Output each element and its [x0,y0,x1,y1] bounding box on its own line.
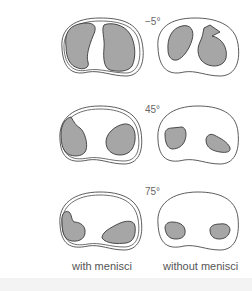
flexion-angle-label-row2: 45° [145,104,160,115]
flexion-angle-label-row3: 75° [145,186,160,197]
tibial-plateau-without-menisci-minus5 [158,18,239,76]
flexion-angle-label-row1: −5° [145,16,160,27]
tibial-plateau-with-menisci-75 [60,192,142,250]
column-label-with-menisci: with menisci [72,260,132,272]
tibial-plateau-without-menisci-75 [158,192,239,250]
contact-area-diagram [0,0,252,291]
lateral-contact-area [210,224,230,239]
tibial-plateau-with-menisci-45 [60,106,142,164]
tibial-plateau-with-menisci-minus5 [62,18,143,76]
tibial-plateau-without-menisci-45 [158,106,239,164]
column-label-without-menisci: without menisci [163,260,238,272]
medial-contact-area [165,222,185,239]
bottom-strip [0,278,252,291]
